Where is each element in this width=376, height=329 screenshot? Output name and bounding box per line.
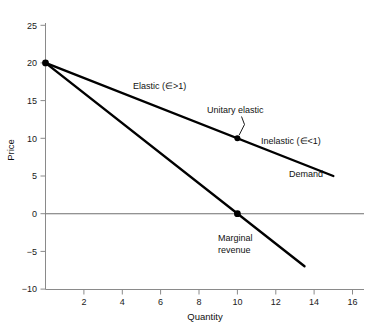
- point-choke-price: [42, 60, 49, 67]
- x-tick-label-16: 16: [347, 297, 357, 307]
- x-tick-label-4: 4: [120, 297, 125, 307]
- x-tick-label-8: 8: [196, 297, 201, 307]
- x-tick-label-14: 14: [309, 297, 319, 307]
- y-tick-label-neg10: −10: [22, 284, 37, 294]
- x-tick-label-12: 12: [271, 297, 281, 307]
- annotation-demand: Demand: [289, 169, 323, 179]
- y-tick-label-25: 25: [27, 21, 37, 31]
- y-tick-label-0: 0: [32, 209, 37, 219]
- annotation-elastic: Elastic (∈>1): [133, 81, 186, 91]
- annotation-unitary-elastic: Unitary elastic: [207, 105, 264, 115]
- annotation-marginal-revenue-line1: Marginal: [218, 233, 253, 243]
- point-mr-zero: [234, 210, 241, 217]
- annotation-marginal-revenue-line2: revenue: [218, 245, 251, 255]
- point-unitary-elastic: [234, 135, 240, 141]
- x-axis-title: Quantity: [187, 311, 223, 322]
- y-tick-label-20: 20: [27, 58, 37, 68]
- y-tick-label-5: 5: [32, 171, 37, 181]
- x-tick-label-6: 6: [158, 297, 163, 307]
- x-tick-label-2: 2: [81, 297, 86, 307]
- y-tick-label-15: 15: [27, 96, 37, 106]
- elasticity-demand-chart: 25 20 15 10 5 0 −5 −10 2 4 6 8 10 12 14: [0, 0, 376, 329]
- y-axis-title: Price: [5, 139, 16, 161]
- annotation-inelastic: Inelastic (∈<1): [261, 136, 321, 146]
- y-tick-label-10: 10: [27, 134, 37, 144]
- chart-background: [0, 0, 376, 329]
- x-tick-label-10: 10: [232, 297, 242, 307]
- chart-svg: 25 20 15 10 5 0 −5 −10 2 4 6 8 10 12 14: [0, 0, 376, 329]
- y-tick-label-neg5: −5: [27, 247, 37, 257]
